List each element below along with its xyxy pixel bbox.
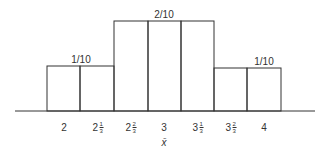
tick-fraction: 2 3 [132, 121, 136, 134]
tick-2-1-3: 2 1 3 [93, 121, 104, 134]
tick-denominator: 3 [133, 128, 136, 134]
tick-fraction: 1 3 [199, 121, 203, 134]
bar-2 [47, 66, 80, 111]
bar-2-1-3 [80, 66, 114, 111]
value-label-right: 1/10 [254, 57, 273, 67]
tick-fraction: 2 3 [232, 121, 236, 134]
tick-numerator: 1 [99, 121, 103, 128]
tick-whole: 2 [93, 123, 99, 133]
x-axis-label: x̄ [162, 137, 167, 148]
bar-3-2-3 [214, 68, 247, 111]
tick-whole: 3 [226, 123, 232, 133]
tick-numerator: 2 [232, 121, 236, 128]
tick-denominator: 3 [200, 128, 203, 134]
tick-numerator: 2 [132, 121, 136, 128]
tick-whole: 3 [161, 123, 167, 133]
bar-4 [247, 68, 281, 111]
tick-4: 4 [261, 123, 267, 133]
tick-2-2-3: 2 2 3 [126, 121, 137, 134]
tick-whole: 4 [261, 123, 267, 133]
tick-2: 2 [61, 123, 67, 133]
tick-fraction: 1 3 [99, 121, 103, 134]
bar-2-2-3 [114, 21, 148, 111]
bar-3 [148, 21, 181, 111]
tick-numerator: 1 [199, 121, 203, 128]
bar-3-1-3 [181, 21, 214, 111]
tick-3: 3 [161, 123, 167, 133]
tick-denominator: 3 [100, 128, 103, 134]
tick-3-2-3: 3 2 3 [226, 121, 237, 134]
value-label-middle: 2/10 [154, 10, 173, 20]
tick-3-1-3: 3 1 3 [193, 121, 204, 134]
tick-whole: 2 [126, 123, 132, 133]
bars [47, 21, 281, 111]
tick-whole: 3 [193, 123, 199, 133]
tick-whole: 2 [61, 123, 67, 133]
tick-denominator: 3 [233, 128, 236, 134]
value-label-left: 1/10 [71, 55, 90, 65]
